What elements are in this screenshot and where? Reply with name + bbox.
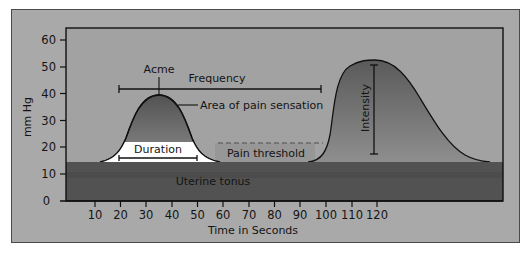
x-tick-30: 30 (139, 208, 154, 222)
area-of-pain-label: Area of pain sensation (200, 99, 323, 112)
contraction-chart: 0 10 20 30 40 50 60 mm Hg 10 20 30 40 50… (0, 0, 531, 257)
frequency-label: Frequency (189, 72, 246, 85)
tonus-band-shade (66, 172, 503, 178)
x-tick-120: 120 (366, 208, 388, 222)
duration-label: Duration (134, 143, 182, 156)
uterine-tonus-label: Uterine tonus (176, 175, 251, 188)
uterine-tonus-band (66, 162, 503, 201)
y-tick-0: 0 (43, 194, 50, 208)
x-tick-20: 20 (113, 208, 128, 222)
y-axis-title: mm Hg (21, 97, 34, 137)
x-tick-90: 90 (293, 208, 308, 222)
y-tick-40: 40 (41, 87, 56, 101)
intensity-label: Intensity (359, 84, 372, 132)
x-tick-100: 100 (315, 208, 337, 222)
y-tick-50: 50 (41, 60, 56, 74)
x-tick-40: 40 (165, 208, 180, 222)
x-tick-70: 70 (242, 208, 257, 222)
x-tick-80: 80 (267, 208, 282, 222)
pain-threshold-label: Pain threshold (227, 147, 305, 160)
acme-label: Acme (144, 63, 175, 76)
x-tick-10: 10 (88, 208, 103, 222)
y-tick-30: 30 (41, 114, 56, 128)
x-axis-title: Time in Seconds (207, 224, 298, 237)
y-tick-20: 20 (41, 140, 56, 154)
y-tick-60: 60 (41, 33, 56, 47)
x-tick-110: 110 (341, 208, 363, 222)
y-tick-10: 10 (41, 167, 56, 181)
x-tick-60: 60 (216, 208, 231, 222)
x-tick-50: 50 (190, 208, 205, 222)
figure: 0 10 20 30 40 50 60 mm Hg 10 20 30 40 50… (0, 0, 531, 257)
